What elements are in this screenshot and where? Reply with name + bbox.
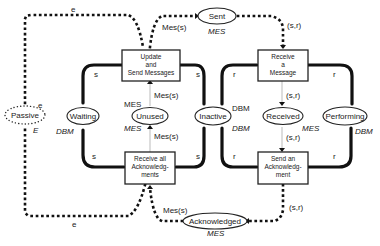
place-type-sent: MES bbox=[208, 27, 226, 36]
transition-label-line2: and bbox=[146, 61, 157, 68]
place-type-unused: MES bbox=[124, 124, 142, 133]
arc-waiting-update bbox=[83, 65, 122, 103]
arc-label-s-waiting-bottom: s bbox=[92, 152, 96, 161]
transition-label-line3: Message bbox=[270, 69, 297, 77]
transition-label-line1: Update bbox=[141, 53, 162, 61]
transition-label-line2: Acknowledg- bbox=[264, 163, 301, 171]
place-performing[interactable]: Performing bbox=[323, 107, 367, 125]
place-label: Inactive bbox=[199, 112, 227, 121]
arc-update-inactive bbox=[180, 65, 204, 104]
arrowhead-receivemsg bbox=[280, 45, 286, 49]
place-type-received: MES bbox=[302, 124, 320, 133]
arc-inactive-sendack bbox=[222, 128, 257, 167]
transition-label-line1: Send an bbox=[271, 155, 296, 162]
transition-receive-all-acknowledgments[interactable]: Receive all Acknowledg- ments bbox=[125, 152, 175, 184]
transition-update-send-messages[interactable]: Update and Send Messages bbox=[122, 50, 180, 81]
petri-net-diagram: Update and Send Messages Receive all Ack… bbox=[0, 0, 380, 246]
transition-label-line3: ments bbox=[141, 171, 159, 178]
arc-label-mes-s-unused-down: Mes(s) bbox=[154, 132, 179, 141]
place-type-performing: DBM bbox=[355, 127, 373, 136]
arc-sent-receivemsg bbox=[238, 16, 283, 46]
place-type-passive: E bbox=[33, 126, 39, 135]
place-sent[interactable]: Sent bbox=[198, 8, 236, 24]
arc-receiveall-inactive bbox=[176, 128, 204, 167]
place-inactive[interactable]: Inactive bbox=[195, 107, 231, 125]
arc-label-r-performing-bottom: r bbox=[333, 152, 336, 161]
arc-sendack-performing bbox=[308, 128, 351, 167]
transition-send-an-acknowledgment[interactable]: Send an Acknowledg- ment bbox=[258, 152, 308, 184]
arc-label-sr-sent: (s,r) bbox=[287, 21, 302, 30]
arc-sendack-ack bbox=[250, 185, 283, 221]
transition-receive-a-message[interactable]: Receive a Message bbox=[258, 50, 308, 81]
transition-label-line3: ment bbox=[276, 171, 291, 178]
arc-receivemsg-performing bbox=[308, 65, 352, 104]
arc-label-r-inactive-bottom: r bbox=[233, 152, 236, 161]
arrowhead-unused bbox=[147, 125, 153, 129]
arc-label-sr-received-in: (s,r) bbox=[286, 91, 301, 100]
arc-label-r-inactive-top: r bbox=[233, 70, 236, 79]
place-waiting[interactable]: Waiting bbox=[67, 108, 99, 125]
place-acknowledged[interactable]: Acknowledged bbox=[183, 213, 247, 229]
place-type-acknowledged: MES bbox=[207, 229, 225, 238]
arc-ack-receiveall bbox=[150, 188, 182, 221]
arc-label-sr-received-out: (s,r) bbox=[286, 133, 301, 142]
arc-label-mes-s-unused-up: Mes(s) bbox=[154, 91, 179, 100]
place-label: Unused bbox=[136, 112, 164, 121]
arrowhead-received bbox=[279, 102, 285, 106]
arc-label-mes-unused: MES bbox=[124, 100, 141, 109]
transition-label-line2: Acknowledg- bbox=[131, 163, 168, 171]
transition-label-line2: a bbox=[281, 61, 285, 68]
arc-label-sr-ack: (s,r) bbox=[289, 203, 304, 212]
arc-label-dbm-inactive: DBM bbox=[232, 104, 250, 113]
place-type-waiting: DBM bbox=[56, 127, 74, 136]
arc-label-mes-s-top: Mes(s) bbox=[162, 23, 187, 32]
arc-label-s-inactive-bottom: s bbox=[196, 152, 200, 161]
arc-label-e-top: e bbox=[71, 5, 76, 14]
arc-label-r-performing-top: r bbox=[333, 70, 336, 79]
place-received[interactable]: Received bbox=[263, 108, 303, 125]
place-label: Received bbox=[266, 112, 299, 121]
place-label: Waiting bbox=[70, 112, 96, 121]
arrowhead-receiveall bbox=[147, 185, 153, 189]
transition-label-line1: Receive bbox=[271, 53, 295, 60]
transition-label-line3: Send Messages bbox=[128, 69, 175, 77]
transition-label-line1: Receive all bbox=[134, 155, 166, 162]
arc-inactive-receivemsg bbox=[222, 65, 257, 104]
place-type-inactive: DBM bbox=[232, 124, 250, 133]
arc-label-s-waiting-top: s bbox=[94, 70, 98, 79]
place-label: Performing bbox=[325, 112, 364, 121]
arc-label-mes-s-bottom: Mes(s) bbox=[163, 206, 188, 215]
place-label: Sent bbox=[209, 12, 226, 21]
arc-waiting-receiveall bbox=[83, 130, 124, 167]
place-label: Acknowledged bbox=[189, 217, 241, 226]
arc-label-e-passive: e bbox=[38, 101, 43, 110]
place-unused[interactable]: Unused bbox=[132, 108, 168, 125]
place-label: Passive bbox=[11, 111, 40, 120]
arc-label-s-inactive-top: s bbox=[196, 70, 200, 79]
arc-label-e-bottom: e bbox=[72, 220, 77, 229]
